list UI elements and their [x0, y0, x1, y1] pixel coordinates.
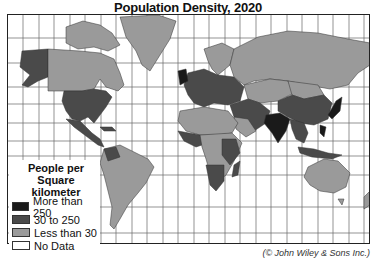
legend-label-low: Less than 30: [34, 227, 97, 239]
australia: [304, 159, 350, 193]
legend-swatch-nodata: [12, 241, 30, 250]
russia: [230, 31, 370, 89]
india: [264, 113, 290, 143]
legend-label-nodata: No Data: [34, 240, 74, 252]
legend-swatch-low: [12, 228, 30, 237]
scandinavia: [204, 43, 234, 75]
usa: [62, 89, 112, 123]
greenland: [120, 15, 176, 71]
legend-title: People per Square kilometer: [12, 162, 100, 198]
tasmania: [338, 199, 344, 205]
legend-item-high: More than 250: [12, 200, 100, 213]
legend-item-low: Less than 30: [12, 226, 100, 239]
legend-swatch-medium: [12, 215, 30, 224]
legend-swatch-high: [12, 202, 29, 211]
legend-item-nodata: No Data: [12, 239, 100, 252]
map-legend: People per Square kilometer More than 25…: [9, 160, 100, 254]
arctic-islands: [66, 21, 120, 51]
philippines: [320, 125, 326, 137]
north-africa: [178, 107, 238, 135]
madagascar: [232, 161, 240, 177]
legend-title-line1: People per Square: [12, 162, 100, 186]
new-zealand: [364, 191, 370, 209]
copyright-credit: (© John Wiley & Sons Inc.): [262, 248, 370, 258]
map-title: Population Density, 2020: [0, 0, 376, 15]
indonesia: [298, 147, 342, 159]
caribbean: [100, 127, 116, 131]
alaska: [20, 49, 48, 87]
canada: [48, 49, 124, 91]
legend-label-medium: 30 to 250: [34, 214, 80, 226]
